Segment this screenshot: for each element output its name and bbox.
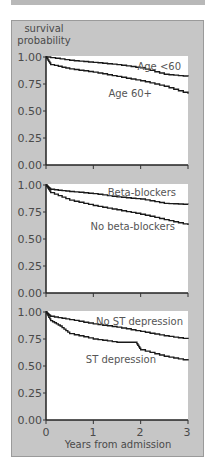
label-age-under-60: Age <60 [137,61,181,72]
label-beta-blockers: Beta-blockers [108,187,176,198]
x-tick-2: 2 [137,426,144,439]
y-tick-label: 1.00 [18,51,43,64]
y-tick-label: 0.75 [18,78,43,91]
label-no-beta-blockers: No beta-blockers [90,221,175,232]
survival-chart: survival probability 1.000.750.500.250.0… [0,0,212,475]
x-tick-3: 3 [184,426,191,439]
y-tick-label: 0.50 [18,233,43,246]
y-tick-label: 0.00 [18,159,43,172]
plot-area [46,184,188,293]
label-no-st-depression: No ST depression [96,316,183,327]
x-tick-0: 0 [43,426,50,439]
y-tick-label: 0.50 [18,105,43,118]
y-tick-label: 0.25 [18,260,43,273]
y-tick-label: 0.50 [18,360,43,373]
y-tick-label: 0.00 [18,287,43,300]
y-axis-title-line1: survival [24,23,63,34]
y-tick-label: 0.25 [18,387,43,400]
plot-area [46,56,188,165]
label-st-depression: ST depression [86,354,156,365]
y-tick-label: 0.75 [18,333,43,346]
x-axis-title: Years from admission [64,439,172,450]
y-tick-label: 0.75 [18,206,43,219]
y-tick-label: 0.25 [18,132,43,145]
label-age-60-plus: Age 60+ [108,88,152,99]
y-tick-label: 1.00 [18,306,43,319]
y-tick-label: 0.00 [18,414,43,427]
y-tick-label: 1.00 [18,179,43,192]
x-tick-1: 1 [90,426,97,439]
y-axis-title-line2: probability [17,35,70,46]
